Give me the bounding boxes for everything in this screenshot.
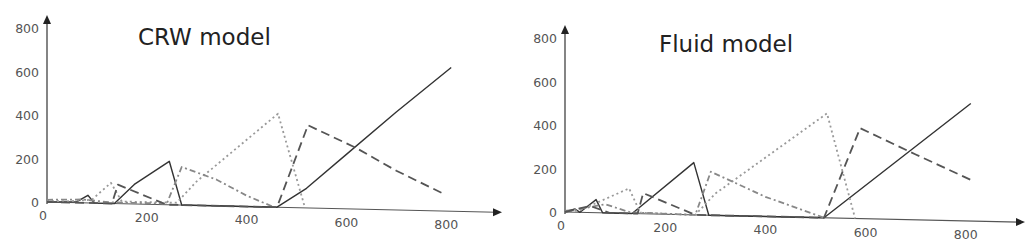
series-dash-dot	[565, 172, 824, 218]
y-tick-label: 0	[31, 195, 39, 210]
y-tick-label: 600	[15, 65, 39, 80]
x-tick-label: 200	[653, 220, 677, 235]
x-tick-label: 600	[334, 215, 358, 230]
x-axis-arrow-icon	[493, 208, 502, 216]
y-axis-arrow-icon	[561, 25, 569, 34]
x-tick-label: 600	[854, 225, 878, 240]
x-tick-label: 400	[753, 222, 777, 237]
y-tick-label: 800	[533, 31, 557, 46]
x-tick-label: 200	[135, 210, 159, 225]
y-tick-label: 200	[15, 152, 39, 167]
x-tick-label: 800	[954, 227, 978, 241]
y-tick-label: 0	[549, 205, 557, 220]
fluid-model-chart: Fluid model 02004006008000200400600800	[510, 0, 1030, 241]
chart-plot-area: 02004006008000200400600800	[510, 0, 1030, 241]
x-tick-label: 0	[39, 208, 47, 223]
x-tick-label: 400	[235, 212, 259, 227]
y-tick-label: 400	[15, 108, 39, 123]
y-axis-arrow-icon	[43, 15, 51, 24]
series-dash-dot	[47, 167, 274, 207]
series-solid	[565, 104, 971, 218]
x-axis-arrow-icon	[1016, 218, 1025, 226]
series-dotted	[47, 114, 305, 208]
x-tick-label: 0	[557, 218, 565, 233]
series-dotted	[565, 113, 855, 218]
x-tick-label: 800	[434, 217, 458, 232]
series-long-dashed	[565, 128, 970, 218]
crw-model-chart: CRW model 02004006008000200400600800	[0, 0, 510, 241]
chart-plot-area: 02004006008000200400600800	[0, 0, 510, 241]
y-tick-label: 400	[533, 118, 557, 133]
y-tick-label: 200	[533, 162, 557, 177]
y-tick-label: 600	[533, 75, 557, 90]
y-tick-label: 800	[15, 21, 39, 36]
